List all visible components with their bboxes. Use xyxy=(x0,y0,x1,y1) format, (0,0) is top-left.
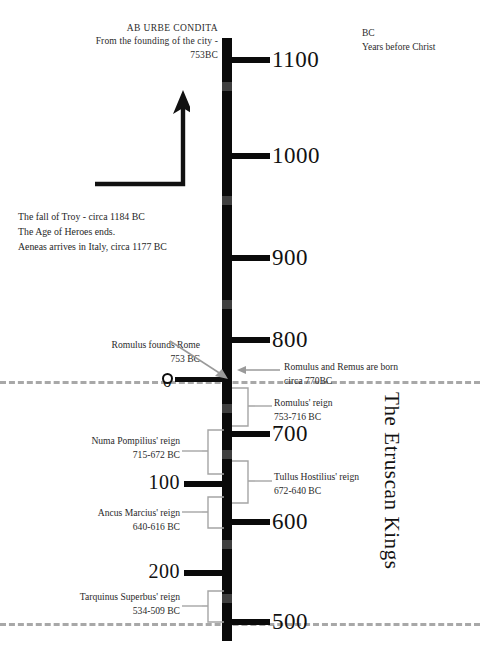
troy-annotation: The fall of Troy - circa 1184 BC The Age… xyxy=(18,210,233,255)
auc-tick-100 xyxy=(184,481,222,487)
bc-label-500: 500 xyxy=(272,610,308,633)
bc-tick-1100 xyxy=(232,57,270,63)
label-ancus-reign: Ancus Marcius' reign 640-616 BC xyxy=(26,506,180,534)
troy-arrow-icon xyxy=(90,88,190,190)
tarquinus-reign-range: 534-509 BC xyxy=(16,604,180,618)
numa-reign-name: Numa Pompilius' reign xyxy=(24,434,180,448)
tullus-reign-name: Tullus Hostilius' reign xyxy=(274,470,434,484)
bc-header-line1: BC xyxy=(362,26,478,40)
label-tullus-reign: Tullus Hostilius' reign 672-640 BC xyxy=(274,470,434,498)
auc-tick-200 xyxy=(184,570,222,576)
auc-header-line1: AB URBE CONDITA xyxy=(18,22,218,35)
label-numa-reign: Numa Pompilius' reign 715-672 BC xyxy=(24,434,180,462)
axis-smudge xyxy=(222,82,232,91)
auc-header-line2: From the founding of the city - xyxy=(18,35,218,48)
bracket-numa-reign xyxy=(182,428,224,476)
bc-tick-900 xyxy=(232,255,270,261)
bracket-tarquinus-reign xyxy=(182,589,224,625)
auc-header-line3: 753BC xyxy=(18,49,218,62)
troy-line2: The Age of Heroes ends. xyxy=(18,225,233,240)
twins-line2: circa 770BC xyxy=(284,374,474,388)
axis-smudge xyxy=(222,300,232,309)
bc-label-600: 600 xyxy=(272,510,308,533)
auc-scale-header: AB URBE CONDITA From the founding of the… xyxy=(18,22,218,62)
bc-label-1000: 1000 xyxy=(272,144,320,167)
founding-callout-arrow-icon xyxy=(168,338,238,386)
tullus-reign-range: 672-640 BC xyxy=(274,484,434,498)
bc-label-800: 800 xyxy=(272,328,308,351)
twins-leader-line-icon xyxy=(236,362,280,374)
bc-tick-600 xyxy=(232,519,270,525)
troy-line3: Aeneas arrives in Italy, circa 1177 BC xyxy=(18,240,233,255)
troy-line1: The fall of Troy - circa 1184 BC xyxy=(18,210,233,225)
bc-tick-700 xyxy=(232,431,270,437)
axis-smudge xyxy=(222,196,232,205)
twins-line1: Romulus and Remus are born xyxy=(284,360,474,374)
bc-label-1100: 1100 xyxy=(272,48,319,71)
auc-label-200: 200 xyxy=(149,561,181,581)
bc-scale-header: BC Years before Christ xyxy=(362,26,478,54)
bracket-ancus-reign xyxy=(182,495,224,531)
bracket-romulus-reign xyxy=(232,386,272,428)
era-title-etruscan-kings: The Etruscan Kings xyxy=(379,392,404,622)
tarquinus-reign-name: Tarquinus Superbus' reign xyxy=(16,590,180,604)
ancus-reign-range: 640-616 BC xyxy=(26,520,180,534)
bc-header-line2: Years before Christ xyxy=(362,40,478,54)
bc-label-900: 900 xyxy=(272,246,308,269)
bc-tick-500 xyxy=(232,619,270,625)
bc-tick-1000 xyxy=(232,153,270,159)
twins-annotation: Romulus and Remus are born circa 770BC xyxy=(284,360,474,388)
auc-label-100: 100 xyxy=(149,472,181,492)
label-tarquinus-reign: Tarquinus Superbus' reign 534-509 BC xyxy=(16,590,180,618)
numa-reign-range: 715-672 BC xyxy=(24,448,180,462)
bc-label-700: 700 xyxy=(272,422,308,445)
axis-smudge xyxy=(222,404,232,413)
axis-smudge xyxy=(222,540,232,549)
timeline-canvas: AB URBE CONDITA From the founding of the… xyxy=(0,0,480,661)
ancus-reign-name: Ancus Marcius' reign xyxy=(26,506,180,520)
bracket-tullus-reign xyxy=(232,459,272,505)
